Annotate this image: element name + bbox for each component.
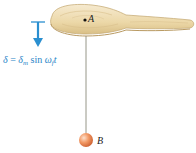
diagram-canvas <box>0 0 196 153</box>
point-a-dot <box>83 18 86 21</box>
ball-b <box>79 133 93 147</box>
label-point-b: B <box>97 135 103 146</box>
formula-function: sin <box>28 54 45 65</box>
formula-equals: = <box>8 54 19 65</box>
formula-omega: ω <box>45 54 52 65</box>
paddle <box>51 4 194 36</box>
displacement-formula: δ = δm sin ωft <box>3 54 56 67</box>
formula-time: t <box>54 54 57 65</box>
displacement-arrow-icon <box>31 22 45 47</box>
label-point-a: A <box>88 13 94 24</box>
